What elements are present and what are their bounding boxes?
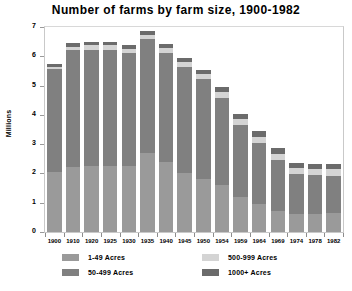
x-axis-tick-label: 1910 [63,238,84,244]
x-axis-tick-label: 1982 [323,238,344,244]
legend-label: 50-499 Acres [88,269,133,276]
bar-segment[interactable] [47,69,62,172]
bar-segment[interactable] [84,166,99,232]
x-axis-tick-label: 1900 [44,238,65,244]
bar-segment[interactable] [177,67,192,173]
bar-segment[interactable] [271,211,286,232]
x-axis-tick-label: 1940 [156,238,177,244]
x-axis-tick-label: 1920 [81,238,102,244]
x-axis-tick-mark [157,233,158,237]
y-axis-label: Millions [5,94,12,154]
legend-swatch [202,269,219,276]
legend-swatch [202,254,219,261]
x-axis-tick-mark [45,233,46,237]
bar-segment[interactable] [215,185,230,232]
x-axis-tick-label: 1954 [212,238,233,244]
bar-segment[interactable] [122,53,137,165]
x-axis-tick-mark [343,233,344,237]
bar-segment[interactable] [289,174,304,214]
bar-segment[interactable] [289,214,304,232]
bar-segment[interactable] [47,172,62,232]
x-axis-tick-mark [250,233,251,237]
bar-segment[interactable] [103,50,118,166]
bar-segment[interactable] [66,50,81,167]
bar-segment[interactable] [103,166,118,232]
legend-label: 500-999 Acres [228,254,277,261]
bar-segment[interactable] [326,213,341,232]
legend-label: 1000+ Acres [228,269,271,276]
bar-segment[interactable] [66,167,81,232]
y-axis-tick-label: 7 [16,22,36,29]
x-axis-tick-label: 1959 [230,238,251,244]
x-axis-tick-mark [269,233,270,237]
bar-segment[interactable] [308,214,323,232]
bar-stack[interactable] [159,44,174,232]
chart-title: Number of farms by farm size, 1900-1982 [0,3,352,17]
bar-stack[interactable] [66,43,81,232]
y-axis-tick-label: 0 [16,227,36,234]
bar-stack[interactable] [84,42,99,232]
bar-stack[interactable] [177,58,192,232]
bar-segment[interactable] [140,153,155,232]
bar-stack[interactable] [103,42,118,232]
bar-stack[interactable] [326,164,341,232]
bar-stack[interactable] [122,45,137,232]
bar-segment[interactable] [159,53,174,162]
bar-segment[interactable] [271,160,286,210]
bar-segment[interactable] [159,162,174,232]
bar-segment[interactable] [196,79,211,179]
x-axis-tick-mark [324,233,325,237]
bar-segment[interactable] [308,175,323,214]
x-axis-tick-label: 1964 [249,238,270,244]
chart-figure: Number of farms by farm size, 1900-1982 … [0,0,352,291]
x-axis-tick-mark [213,233,214,237]
bar-stack[interactable] [289,163,304,232]
x-axis-tick-mark [287,233,288,237]
bar-segment[interactable] [196,179,211,232]
y-axis-tick-label: 2 [16,168,36,175]
bar-stack[interactable] [140,31,155,232]
x-axis-tick-mark [175,233,176,237]
bar-stack[interactable] [233,114,248,232]
bar-segment[interactable] [215,98,230,185]
x-axis-tick-label: 1930 [119,238,140,244]
x-axis-tick-mark [101,233,102,237]
bar-stack[interactable] [47,64,62,232]
y-axis-tick-label: 1 [16,198,36,205]
bar-segment[interactable] [177,173,192,232]
x-axis-tick-label: 1978 [305,238,326,244]
bar-stack[interactable] [252,131,267,232]
x-axis-tick-mark [120,233,121,237]
x-axis-tick-label: 1969 [268,238,289,244]
y-axis-tick-label: 6 [16,51,36,58]
bar-segment[interactable] [84,50,99,166]
bar-segment[interactable] [140,39,155,153]
bar-segment[interactable] [233,197,248,232]
bar-segment[interactable] [122,166,137,232]
bar-stack[interactable] [308,164,323,232]
x-axis-tick-label: 1925 [100,238,121,244]
x-axis: 1900191019201925193019351940194519501954… [45,233,343,251]
x-axis-tick-mark [64,233,65,237]
bar-segment[interactable] [326,176,341,214]
bar-segment[interactable] [252,143,267,205]
bar-stack[interactable] [215,87,230,232]
bar-segment[interactable] [233,125,248,196]
y-axis-tick-label: 5 [16,81,36,88]
x-axis-tick-mark [82,233,83,237]
legend-item[interactable]: 50-499 Acres [62,269,133,276]
legend-item[interactable]: 1-49 Acres [62,254,125,261]
bar-stack[interactable] [196,70,211,233]
chart-legend: 1-49 Acres50-499 Acres500-999 Acres1000+… [0,252,352,286]
x-axis-tick-mark [194,233,195,237]
y-axis-tick-label: 4 [16,110,36,117]
legend-item[interactable]: 500-999 Acres [202,254,277,261]
legend-swatch [62,254,79,261]
x-axis-tick-mark [138,233,139,237]
bar-segment[interactable] [252,204,267,232]
bar-stack[interactable] [271,148,286,232]
x-axis-tick-mark [306,233,307,237]
legend-item[interactable]: 1000+ Acres [202,269,271,276]
x-axis-tick-label: 1935 [137,238,158,244]
x-axis-tick-label: 1945 [174,238,195,244]
